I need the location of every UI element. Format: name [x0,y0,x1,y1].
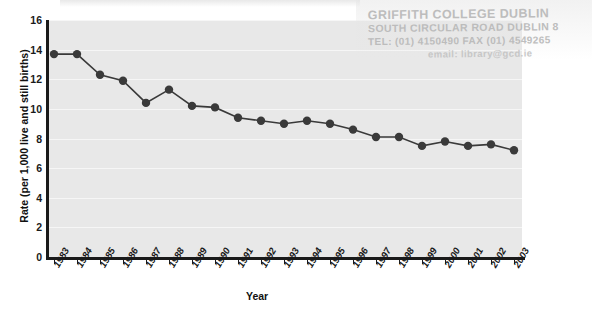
stamp-line-address: SOUTH CIRCULAR ROAD DUBLIN 8 [368,20,592,35]
gridline [49,79,522,80]
chart-figure: 1614121086420 Rate (per 1,000 live and s… [0,0,592,310]
library-stamp: GRIFFITH COLLEGE DUBLIN SOUTH CIRCULAR R… [368,7,592,61]
gridline [49,109,522,110]
x-axis-title: Year [246,290,268,302]
gridline [49,139,522,140]
stamp-line-email: email: library@gcd.ie [368,46,592,61]
gridline [49,168,522,169]
scan-artifact-top [60,0,360,7]
y-axis-title: Rate (per 1,000 live and still births) [18,16,30,256]
gridline [49,198,522,199]
